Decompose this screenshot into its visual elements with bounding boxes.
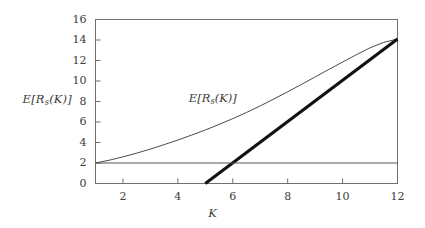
x-tick-label: 10 xyxy=(331,190,355,203)
x-axis-label: K xyxy=(0,206,425,220)
x-tick-label: 4 xyxy=(166,190,190,203)
plot-frame xyxy=(96,20,398,184)
y-axis-label-main: E[R xyxy=(23,92,45,106)
x-tick-label: 8 xyxy=(276,190,300,203)
y-tick-label: 0 xyxy=(63,177,87,190)
figure-container: E[Rs(K)] K E[Rs(K)] 0246810121416 246810… xyxy=(0,0,425,228)
y-tick-label: 2 xyxy=(63,156,87,169)
y-tick-label: 8 xyxy=(63,95,87,108)
tick-marks xyxy=(96,20,398,184)
y-tick-label: 14 xyxy=(63,33,87,46)
curve-annotation-tail: (K)] xyxy=(215,91,237,105)
x-tick-label: 6 xyxy=(221,190,245,203)
curve-annotation: E[Rs(K)] xyxy=(189,91,237,106)
data-series xyxy=(96,39,398,184)
y-tick-label: 16 xyxy=(63,13,87,26)
x-tick-label: 12 xyxy=(386,190,410,203)
y-tick-label: 6 xyxy=(63,115,87,128)
y-tick-label: 4 xyxy=(63,136,87,149)
curve-annotation-main: E[R xyxy=(189,91,211,105)
y-tick-label: 12 xyxy=(63,54,87,67)
x-tick-label: 2 xyxy=(111,190,135,203)
y-tick-label: 10 xyxy=(63,74,87,87)
